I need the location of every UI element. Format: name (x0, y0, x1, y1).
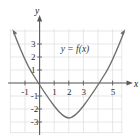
x-tick-label-1: 1 (52, 87, 57, 97)
x-tick-label-neg1: -1 (21, 87, 29, 97)
y-tick-label-1: 1 (31, 65, 36, 75)
x-tick-label-2: 2 (67, 87, 72, 97)
y-axis-arrow (37, 15, 42, 22)
graph-figure: -1 1 2 3 5 3 2 1 -1 -2 -3 y x y = f(x) (0, 0, 139, 139)
x-axis-label: x (133, 79, 139, 89)
x-tick-label-5: 5 (111, 87, 116, 97)
x-axis-arrow (127, 80, 134, 85)
y-tick-label-neg2: -2 (31, 104, 39, 114)
function-annotation: y = f(x) (60, 44, 90, 55)
y-tick-label-2: 2 (31, 52, 36, 62)
y-axis-label: y (34, 6, 40, 16)
x-tick-label-3: 3 (82, 87, 87, 97)
y-tick-label-neg3: -3 (31, 117, 39, 127)
y-tick-label-3: 3 (31, 39, 36, 49)
parabola-plot: -1 1 2 3 5 3 2 1 -1 -2 -3 y x y = f(x) (0, 0, 139, 139)
y-tick-label-neg1: -1 (31, 91, 39, 101)
